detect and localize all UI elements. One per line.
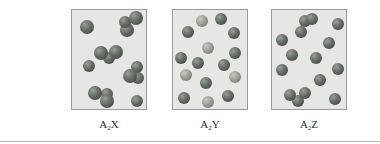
particle-sphere	[229, 71, 241, 83]
particle-sphere	[306, 13, 318, 25]
label-a2y: A2Y	[172, 118, 248, 132]
particle-sphere	[109, 45, 123, 59]
particle-sphere	[276, 64, 288, 76]
particle-sphere	[202, 42, 214, 54]
particle-sphere	[83, 60, 95, 72]
bottom-divider	[0, 141, 380, 142]
particle-sphere	[332, 63, 344, 75]
particle-sphere	[222, 90, 234, 102]
particle-sphere	[94, 46, 108, 60]
particle-sphere	[286, 49, 298, 61]
particle-sphere	[178, 92, 190, 104]
particle-sphere	[200, 77, 212, 89]
particle-sphere	[175, 52, 187, 64]
particle-sphere	[182, 26, 194, 38]
particle-sphere	[129, 11, 143, 25]
label-tail: Y	[212, 118, 220, 130]
label-tail: Z	[311, 118, 318, 130]
particle-sphere	[310, 52, 322, 64]
particle-sphere	[295, 26, 307, 38]
label-tail: X	[111, 118, 119, 130]
particle-sphere	[196, 15, 208, 27]
particle-sphere	[276, 34, 288, 46]
particle-sphere	[215, 13, 227, 25]
particle-sphere	[202, 96, 214, 108]
particle-sphere	[100, 94, 114, 108]
particle-sphere	[131, 95, 143, 107]
particle-sphere	[329, 93, 341, 105]
particle-sphere	[218, 59, 230, 71]
particle-sphere	[284, 89, 296, 101]
label-a2z: A2Z	[271, 118, 347, 132]
label-main: A	[300, 118, 308, 130]
particle-sphere	[180, 69, 192, 81]
particle-sphere	[332, 18, 344, 30]
particle-sphere	[314, 74, 326, 86]
particle-sphere	[192, 57, 204, 69]
particle-sphere	[299, 87, 311, 99]
particle-sphere	[323, 37, 335, 49]
particle-sphere	[228, 27, 240, 39]
particle-sphere	[123, 69, 137, 83]
particle-sphere	[80, 20, 94, 34]
label-a2x: A2X	[71, 118, 147, 132]
particle-sphere	[229, 47, 241, 59]
